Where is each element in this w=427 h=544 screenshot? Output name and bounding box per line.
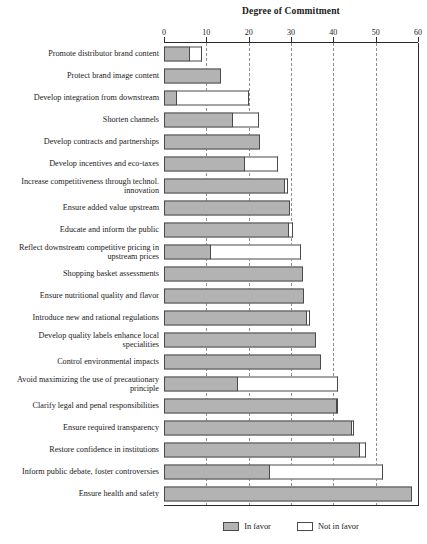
chart-row: Develop integration from downstream: [0, 87, 427, 109]
category-label: Shopping basket assessments: [4, 269, 159, 278]
stacked-bar[interactable]: [164, 113, 259, 128]
chart-title: Degree of Commitment: [164, 6, 418, 16]
bar-segment-not-in-favor[interactable]: [285, 179, 288, 194]
x-tick-mark: [249, 37, 250, 42]
bar-segment-not-in-favor[interactable]: [270, 465, 383, 480]
bar-segment-in-favor[interactable]: [164, 245, 211, 260]
category-label: Develop quality labels enhance local spe…: [4, 331, 159, 350]
stacked-bar[interactable]: [164, 333, 316, 348]
bar-track: [164, 131, 418, 153]
stacked-bar[interactable]: [164, 267, 303, 282]
category-label: Shorten channels: [4, 115, 159, 124]
chart-row: Develop quality labels enhance local spe…: [0, 329, 427, 351]
chart-row: Develop incentives and eco-taxes: [0, 153, 427, 175]
category-label: Protect brand image content: [4, 71, 159, 80]
bar-segment-not-in-favor[interactable]: [177, 91, 249, 106]
category-label: Develop integration from downstream: [4, 93, 159, 102]
chart-row: Control environmental impacts: [0, 351, 427, 373]
category-label: Develop incentives and eco-taxes: [4, 159, 159, 168]
bar-track: [164, 417, 418, 439]
bar-track: [164, 307, 418, 329]
bar-segment-in-favor[interactable]: [164, 223, 289, 238]
stacked-bar[interactable]: [164, 465, 383, 480]
bar-segment-in-favor[interactable]: [164, 355, 321, 370]
bar-segment-in-favor[interactable]: [164, 399, 337, 414]
bar-segment-not-in-favor[interactable]: [337, 399, 338, 414]
bar-segment-in-favor[interactable]: [164, 333, 316, 348]
bar-segment-not-in-favor[interactable]: [352, 421, 355, 436]
x-tick-mark: [376, 37, 377, 42]
x-tick-label: 10: [202, 28, 210, 37]
bar-segment-not-in-favor[interactable]: [307, 311, 310, 326]
bar-segment-not-in-favor[interactable]: [211, 245, 302, 260]
stacked-bar[interactable]: [164, 223, 293, 238]
bar-segment-in-favor[interactable]: [164, 289, 304, 304]
stacked-bar[interactable]: [164, 377, 338, 392]
bar-segment-in-favor[interactable]: [164, 69, 221, 84]
bar-track: [164, 197, 418, 219]
bar-segment-in-favor[interactable]: [164, 267, 303, 282]
stacked-bar[interactable]: [164, 487, 412, 502]
chart-row: Reflect downstream competitive pricing i…: [0, 241, 427, 263]
stacked-bar[interactable]: [164, 157, 278, 172]
stacked-bar[interactable]: [164, 421, 354, 436]
bar-segment-in-favor[interactable]: [164, 377, 238, 392]
category-label: Introduce new and rational regulations: [4, 313, 159, 322]
bar-segment-in-favor[interactable]: [164, 443, 360, 458]
chart-row: Educate and inform the public: [0, 219, 427, 241]
stacked-bar[interactable]: [164, 47, 202, 62]
legend-swatch-against: [297, 522, 313, 531]
category-label: Ensure nutritional quality and flavor: [4, 291, 159, 300]
stacked-bar[interactable]: [164, 443, 366, 458]
bar-track: [164, 263, 418, 285]
bar-segment-in-favor[interactable]: [164, 179, 285, 194]
stacked-bar[interactable]: [164, 289, 304, 304]
stacked-bar[interactable]: [164, 245, 301, 260]
bar-segment-in-favor[interactable]: [164, 157, 245, 172]
stacked-bar[interactable]: [164, 201, 290, 216]
bar-track: [164, 395, 418, 417]
category-label: Reflect downstream competitive pricing i…: [4, 243, 159, 262]
bar-segment-in-favor[interactable]: [164, 311, 307, 326]
bar-track: [164, 219, 418, 241]
stacked-bar[interactable]: [164, 399, 338, 414]
bar-track: [164, 483, 418, 505]
bar-segment-in-favor[interactable]: [164, 201, 290, 216]
bar-track: [164, 153, 418, 175]
category-label: Clarify legal and penal responsibilities: [4, 401, 159, 410]
bar-track: [164, 285, 418, 307]
degree-of-commitment-chart: Degree of Commitment 0102030405060 Promo…: [0, 0, 427, 544]
bar-segment-in-favor[interactable]: [164, 487, 412, 502]
category-label: Restore confidence in institutions: [4, 445, 159, 454]
stacked-bar[interactable]: [164, 311, 310, 326]
bar-segment-not-in-favor[interactable]: [190, 47, 202, 62]
x-tick-mark: [206, 37, 207, 42]
bar-track: [164, 351, 418, 373]
x-tick-mark: [164, 37, 165, 42]
stacked-bar[interactable]: [164, 179, 288, 194]
bar-segment-in-favor[interactable]: [164, 135, 260, 150]
bar-segment-not-in-favor[interactable]: [245, 157, 278, 172]
x-tick-mark: [418, 37, 419, 42]
stacked-bar[interactable]: [164, 91, 249, 106]
bar-segment-not-in-favor[interactable]: [289, 223, 292, 238]
legend-item[interactable]: Not in favor: [297, 522, 359, 531]
x-tick-label: 0: [162, 28, 166, 37]
stacked-bar[interactable]: [164, 355, 321, 370]
bar-segment-not-in-favor[interactable]: [233, 113, 259, 128]
bar-track: [164, 241, 418, 263]
bar-segment-in-favor[interactable]: [164, 465, 270, 480]
bar-segment-in-favor[interactable]: [164, 113, 233, 128]
bar-segment-in-favor[interactable]: [164, 421, 352, 436]
bar-segment-not-in-favor[interactable]: [238, 377, 337, 392]
stacked-bar[interactable]: [164, 69, 221, 84]
legend-label: In favor: [244, 522, 271, 531]
bar-segment-in-favor[interactable]: [164, 47, 190, 62]
category-label: Increase competitiveness through technol…: [4, 177, 159, 196]
category-label: Educate and inform the public: [4, 225, 159, 234]
stacked-bar[interactable]: [164, 135, 260, 150]
bar-segment-not-in-favor[interactable]: [360, 443, 366, 458]
legend-item[interactable]: In favor: [223, 522, 271, 531]
category-label: Ensure health and safety: [4, 489, 159, 498]
bar-segment-in-favor[interactable]: [164, 91, 177, 106]
